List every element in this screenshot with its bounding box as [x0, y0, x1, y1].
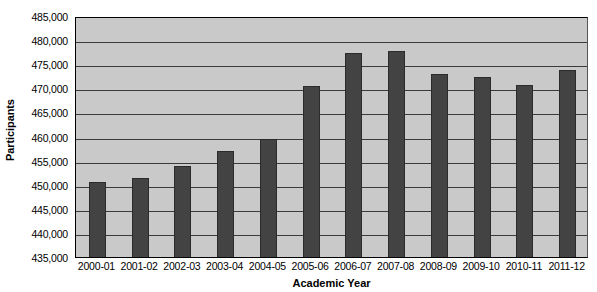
bar	[559, 70, 576, 257]
x-axis-tick-label: 2009-10	[463, 260, 500, 272]
y-axis-tick-label: 470,000	[31, 83, 68, 95]
x-axis-tick-label: 2002-03	[163, 260, 200, 272]
x-axis-tick-label: 2001-02	[121, 260, 158, 272]
bar	[132, 178, 149, 258]
y-axis-tick-label: 450,000	[31, 180, 68, 192]
y-axis-tick-label: 435,000	[31, 252, 68, 264]
y-axis-tick-label: 440,000	[31, 228, 68, 240]
x-axis-tick-label: 2008-09	[420, 260, 457, 272]
x-axis-title: Academic Year	[75, 277, 588, 289]
x-axis-tick-label: 2003-04	[206, 260, 243, 272]
y-axis-tick-label: 485,000	[31, 11, 68, 23]
bar	[303, 86, 320, 257]
y-axis-title: Participants	[0, 0, 20, 260]
x-axis-tick-label: 2006-07	[334, 260, 371, 272]
bar	[89, 182, 106, 257]
bar	[260, 139, 277, 257]
y-axis-tick-label: 455,000	[31, 156, 68, 168]
bar	[345, 53, 362, 257]
y-axis-tick-labels: 435,000440,000445,000450,000455,000460,0…	[18, 11, 72, 263]
plot-area	[75, 17, 588, 258]
bar	[174, 166, 191, 257]
y-axis-tick-label: 445,000	[31, 204, 68, 216]
x-axis-tick-label: 2010-11	[506, 260, 542, 272]
x-axis-tick-label: 2000-01	[78, 260, 115, 272]
x-axis-tick-label: 2011-12	[548, 260, 584, 272]
x-axis-tick-label: 2007-08	[377, 260, 414, 272]
x-axis-tick-labels: 2000-012001-022002-032003-042004-052005-…	[75, 260, 588, 276]
y-axis-tick-label: 465,000	[31, 107, 68, 119]
x-axis-tick-label: 2005-06	[292, 260, 329, 272]
y-axis-tick-label: 480,000	[31, 35, 68, 47]
x-axis-tick-label: 2004-05	[249, 260, 286, 272]
bar	[516, 85, 533, 257]
y-axis-tick-label: 460,000	[31, 132, 68, 144]
y-axis-tick-label: 475,000	[31, 59, 68, 71]
bar-series	[76, 18, 587, 257]
bar	[474, 77, 491, 257]
bar	[217, 151, 234, 257]
bar-chart-figure: Participants 435,000440,000445,000450,00…	[0, 0, 597, 292]
bar	[388, 51, 405, 257]
bar	[431, 74, 448, 257]
y-axis-title-label: Participants	[4, 99, 16, 161]
